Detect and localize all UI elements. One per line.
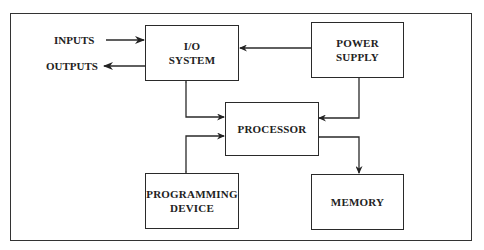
programming-device-line2: DEVICE (170, 201, 214, 215)
io-processor-link (186, 82, 224, 117)
io-system-line2: SYSTEM (169, 53, 215, 67)
programming-device-block: PROGRAMMING DEVICE (145, 173, 239, 229)
inputs-label: INPUTS (54, 34, 94, 46)
power-supply-block: POWER SUPPLY (311, 22, 404, 78)
power-supply-line2: SUPPLY (336, 50, 379, 64)
power-to-processor-arrow (319, 78, 359, 118)
processor-label: PROCESSOR (237, 122, 306, 136)
programming-processor-link (186, 136, 224, 172)
outputs-label: OUTPUTS (46, 60, 98, 72)
processor-block: PROCESSOR (225, 102, 319, 156)
io-system-line1: I/O (184, 39, 201, 53)
programming-device-line1: PROGRAMMING (146, 187, 237, 201)
memory-block: MEMORY (311, 174, 404, 230)
plc-block-diagram: INPUTS OUTPUTS I/O SYSTEM POWER SUPPLY P… (0, 0, 484, 250)
memory-processor-link (319, 137, 359, 173)
io-system-block: I/O SYSTEM (145, 25, 239, 81)
memory-label: MEMORY (331, 195, 384, 209)
power-supply-line1: POWER (336, 36, 379, 50)
